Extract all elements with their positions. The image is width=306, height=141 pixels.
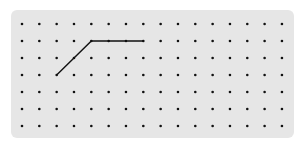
grid-dot xyxy=(142,74,145,77)
drawn-path xyxy=(57,41,144,75)
grid-dot xyxy=(177,74,180,77)
grid-dot xyxy=(125,91,128,94)
grid-dot xyxy=(211,125,214,128)
grid-dot xyxy=(177,57,180,60)
grid-dot xyxy=(177,23,180,26)
grid-dot xyxy=(125,23,128,26)
grid-dot xyxy=(159,57,162,60)
grid-dot xyxy=(73,74,76,77)
grid-dot xyxy=(177,125,180,128)
grid-dot xyxy=(229,125,232,128)
grid-dot xyxy=(125,57,128,60)
grid-dot xyxy=(90,74,93,77)
grid-dot xyxy=(107,91,110,94)
grid-dot xyxy=(281,57,284,60)
grid-dot xyxy=(90,125,93,128)
grid-dot xyxy=(246,108,249,111)
grid-dot xyxy=(211,23,214,26)
grid-dot xyxy=(159,108,162,111)
grid-dot xyxy=(194,108,197,111)
grid-dot xyxy=(38,40,41,43)
grid-dot xyxy=(73,23,76,26)
grid-dot xyxy=(281,108,284,111)
grid-dot xyxy=(21,108,24,111)
grid-dot xyxy=(194,57,197,60)
grid-dot xyxy=(159,125,162,128)
grid-dot xyxy=(142,23,145,26)
grid-dot xyxy=(229,23,232,26)
grid-dot xyxy=(21,57,24,60)
grid-dot xyxy=(211,57,214,60)
grid-dot xyxy=(159,23,162,26)
dot-grid-canvas xyxy=(0,0,306,141)
grid-dot xyxy=(55,108,58,111)
grid-dot xyxy=(21,91,24,94)
grid-dot xyxy=(38,23,41,26)
grid-dot xyxy=(159,91,162,94)
grid-dot xyxy=(229,91,232,94)
grid-dot xyxy=(263,40,266,43)
grid-dot xyxy=(263,91,266,94)
grid-dot xyxy=(194,125,197,128)
grid-dot xyxy=(55,57,58,60)
grid-dot xyxy=(194,74,197,77)
grid-dot xyxy=(246,125,249,128)
grid-dot xyxy=(229,108,232,111)
grid-dot xyxy=(159,40,162,43)
grid-dot xyxy=(177,108,180,111)
grid-dot xyxy=(38,57,41,60)
grid-dot xyxy=(229,57,232,60)
grid-dot xyxy=(142,91,145,94)
grid-dot xyxy=(38,108,41,111)
grid-dot xyxy=(73,108,76,111)
grid-dot xyxy=(211,91,214,94)
grid-dot xyxy=(21,74,24,77)
grid-dot xyxy=(90,91,93,94)
grid-dot xyxy=(107,57,110,60)
grid-dot xyxy=(55,40,58,43)
grid-dot xyxy=(38,74,41,77)
grid-dot xyxy=(142,57,145,60)
grid-dot xyxy=(21,40,24,43)
grid-dot xyxy=(125,74,128,77)
grid-dot xyxy=(229,74,232,77)
grid-dot xyxy=(281,40,284,43)
grid-dot xyxy=(263,57,266,60)
grid-dot xyxy=(90,108,93,111)
grid-dot xyxy=(38,125,41,128)
grid-dot xyxy=(263,23,266,26)
grid-dot xyxy=(229,40,232,43)
grid-dot xyxy=(21,23,24,26)
grid-dot xyxy=(246,57,249,60)
grid-dot xyxy=(211,108,214,111)
grid-dot xyxy=(177,91,180,94)
grid-dot xyxy=(55,91,58,94)
grid-dot xyxy=(263,74,266,77)
grid-dot xyxy=(211,40,214,43)
grid-dot xyxy=(194,91,197,94)
grid-dot xyxy=(55,23,58,26)
grid-dot xyxy=(194,23,197,26)
grid-dot xyxy=(263,125,266,128)
grid-dot xyxy=(142,125,145,128)
grid-dot xyxy=(246,91,249,94)
grid-dot xyxy=(281,125,284,128)
grid-dot xyxy=(246,23,249,26)
grid-dot xyxy=(73,125,76,128)
grid-dot xyxy=(73,40,76,43)
grid-dot xyxy=(107,108,110,111)
grid-dot xyxy=(281,23,284,26)
grid-dot xyxy=(55,125,58,128)
grid-dot xyxy=(21,125,24,128)
grid-dot xyxy=(194,40,197,43)
grid-dot xyxy=(263,108,266,111)
grid-dot xyxy=(211,74,214,77)
grid-dot xyxy=(142,108,145,111)
grid-dot xyxy=(177,40,180,43)
grid-dot xyxy=(281,74,284,77)
grid-dot xyxy=(90,23,93,26)
grid-dot xyxy=(246,74,249,77)
grid-dot xyxy=(38,91,41,94)
grid-dot xyxy=(159,74,162,77)
grid-dots xyxy=(21,23,284,128)
